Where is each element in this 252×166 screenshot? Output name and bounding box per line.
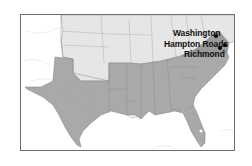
richmond-label: Richmond <box>184 50 225 59</box>
washington-label: Washington <box>173 29 220 38</box>
map-frame: Washington Hampton Roads Richmond <box>20 14 235 151</box>
hampton-roads-label: Hampton Roads <box>164 40 228 49</box>
